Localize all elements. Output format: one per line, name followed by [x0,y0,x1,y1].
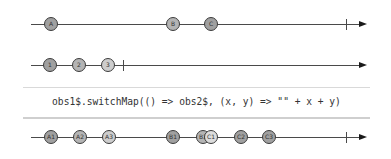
marble-source-b: B [166,17,180,31]
marble-output-b1: B1 [166,130,180,144]
marble-source-a: A [44,17,58,31]
inner-complete-tick [123,60,124,71]
marble-output-a3: A3 [102,130,116,144]
source-timeline-line [31,24,361,25]
marble-label: A3 [105,134,113,140]
marble-label: B1 [169,134,177,140]
marble-label: C [209,21,213,27]
output-arrow-icon [359,134,367,140]
marble-label: C2 [237,134,245,140]
marble-label: 1 [48,62,52,68]
marble-label: B [171,21,175,27]
marble-label: 3 [106,62,110,68]
marble-label: 2 [77,62,81,68]
marble-label: C1 [207,134,215,140]
marble-output-c3: C3 [262,130,276,144]
marble-label: C3 [265,134,273,140]
operator-bottom-divider [23,117,370,119]
marble-diagram: A B C 1 2 3 obs1$.switchMap(() => obs2$,… [0,0,391,159]
marble-label: A2 [76,134,84,140]
operator-expression: obs1$.switchMap(() => obs2$, (x, y) => "… [23,96,370,107]
marble-output-a2: A2 [73,130,87,144]
operator-top-divider [23,87,370,88]
marble-label: A [49,21,53,27]
source-complete-tick [346,19,347,30]
marble-output-c1: C1 [204,130,218,144]
marble-output-c2: C2 [234,130,248,144]
inner-arrow-icon [359,62,367,68]
marble-source-c: C [204,17,218,31]
marble-inner-1: 1 [43,58,57,72]
marble-label: A1 [47,134,55,140]
source-arrow-icon [359,21,367,27]
output-complete-tick [346,132,347,143]
marble-inner-3: 3 [101,58,115,72]
marble-inner-2: 2 [72,58,86,72]
marble-output-a1: A1 [44,130,58,144]
